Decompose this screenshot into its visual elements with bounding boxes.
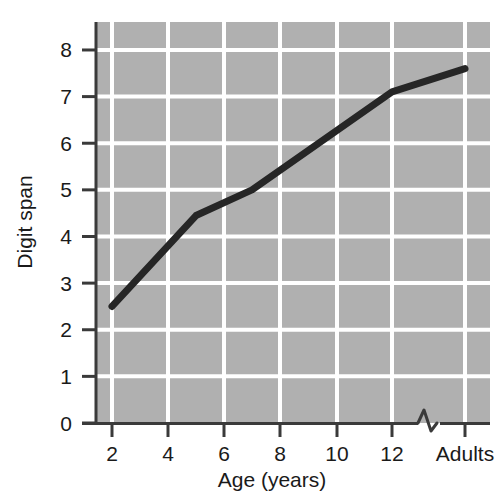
- y-tick-label: 8: [60, 38, 72, 61]
- y-axis-title: Digit span: [13, 175, 36, 268]
- x-axis-ticks: [112, 423, 465, 437]
- y-tick-label: 7: [60, 85, 72, 108]
- x-tick-label: Adults: [436, 442, 494, 465]
- y-tick-label: 6: [60, 132, 72, 155]
- y-tick-label: 5: [60, 178, 72, 201]
- y-tick-label: 3: [60, 272, 72, 295]
- digit-span-line-chart: 012345678 24681012Adults Digit span Age …: [0, 0, 504, 503]
- y-axis-tick-labels: 012345678: [60, 38, 72, 434]
- y-tick-label: 2: [60, 318, 72, 341]
- y-axis-ticks: [82, 50, 96, 423]
- y-tick-label: 0: [60, 412, 72, 435]
- chart-figure: 012345678 24681012Adults Digit span Age …: [0, 0, 504, 503]
- x-axis-tick-labels: 24681012Adults: [106, 442, 494, 465]
- y-tick-label: 1: [60, 365, 72, 388]
- y-tick-label: 4: [60, 225, 72, 248]
- x-tick-label: 10: [325, 442, 348, 465]
- x-axis-title: Age (years): [218, 468, 327, 491]
- x-tick-label: 4: [162, 442, 174, 465]
- x-tick-label: 6: [218, 442, 230, 465]
- x-tick-label: 8: [274, 442, 286, 465]
- x-tick-label: 12: [380, 442, 403, 465]
- x-tick-label: 2: [106, 442, 118, 465]
